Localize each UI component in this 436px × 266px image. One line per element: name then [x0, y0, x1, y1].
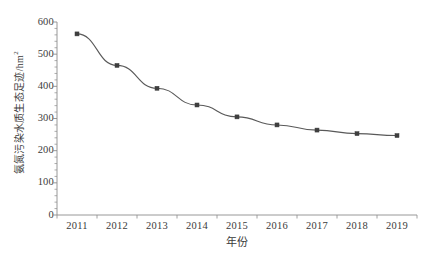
chart-canvas	[0, 0, 436, 266]
chart-figure: 0100200300400500600 20112012201320142015…	[0, 0, 436, 266]
series-marker	[395, 134, 399, 138]
series-marker	[115, 63, 119, 67]
series-marker	[75, 32, 79, 36]
axis-ticks	[53, 22, 418, 219]
series-marker	[195, 103, 199, 107]
series-marker	[275, 123, 279, 127]
series-line	[77, 34, 397, 136]
data-series	[75, 32, 399, 138]
series-marker	[355, 132, 359, 136]
series-marker	[315, 128, 319, 132]
series-marker	[155, 86, 159, 90]
series-marker	[235, 115, 239, 119]
